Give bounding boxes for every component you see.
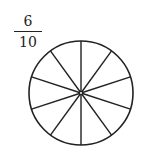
circle-divided-into-ten-parts: [0, 0, 142, 152]
center-hub: [79, 91, 82, 94]
